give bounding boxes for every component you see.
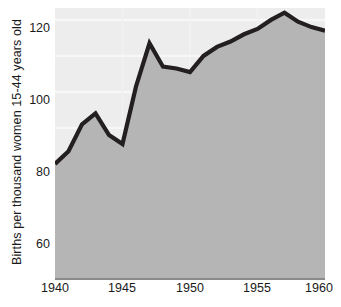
- x-tick-label-1945: 1945: [100, 282, 144, 295]
- x-tick-label-1940: 1940: [33, 282, 77, 295]
- x-tick-label-1960: 1960: [297, 282, 341, 295]
- x-tick-label-1955: 1955: [235, 282, 279, 295]
- y-tick-label-80: 80: [2, 166, 50, 179]
- births-rate-area-chart: Births per thousand women 15-44 years ol…: [0, 0, 341, 307]
- plot-svg: [55, 8, 325, 278]
- y-axis-tick-labels: 120 100 80 60: [0, 0, 50, 307]
- x-axis-tick-labels: 1940 1945 1950 1955 1960: [0, 282, 341, 304]
- plot-area: [55, 8, 325, 278]
- x-tick-label-1950: 1950: [168, 282, 212, 295]
- y-tick-label-120: 120: [2, 22, 50, 35]
- x-axis-baseline: [55, 278, 325, 280]
- y-tick-label-100: 100: [2, 94, 50, 107]
- y-tick-label-60: 60: [2, 238, 50, 251]
